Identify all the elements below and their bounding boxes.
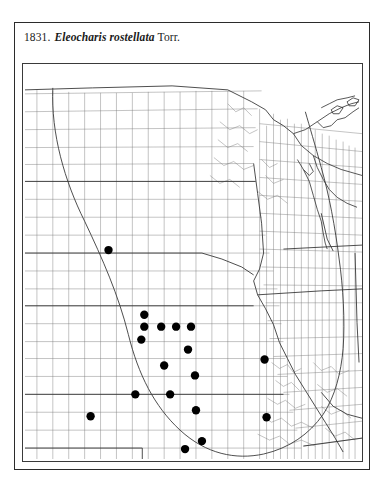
range-limit-line	[53, 88, 344, 456]
occurrence-dot	[198, 437, 206, 445]
occurrence-dot	[181, 445, 189, 453]
occurrence-dot	[262, 413, 270, 421]
occurrence-dot	[131, 390, 139, 398]
state-boundaries	[25, 86, 362, 459]
occurrence-dot	[172, 322, 180, 330]
scientific-name: Eleocharis rostellata	[50, 31, 154, 43]
occurrence-dot	[160, 361, 168, 369]
occurrence-dot	[187, 322, 195, 330]
occurrence-dot	[86, 412, 94, 420]
occurrence-dot	[137, 335, 145, 343]
occurrence-dot	[192, 406, 200, 414]
great-lakes-coastline	[293, 96, 362, 249]
plate-number: 1831.	[24, 31, 50, 43]
occurrence-dot	[140, 322, 148, 330]
plate-frame: 1831.Eleocharis rostellataTorr.	[14, 22, 370, 470]
occurrence-dot	[260, 355, 268, 363]
plate-caption: 1831.Eleocharis rostellataTorr.	[15, 23, 369, 56]
taxon-authority: Torr.	[155, 31, 180, 43]
occurrence-dot	[140, 311, 148, 319]
map-graphic	[23, 64, 362, 461]
occurrence-dot	[157, 322, 165, 330]
occurrence-dot	[184, 345, 192, 353]
page-canvas: 1831.Eleocharis rostellataTorr.	[0, 0, 386, 491]
occurrence-dot	[166, 390, 174, 398]
occurrence-dot	[191, 371, 199, 379]
occurrence-dot	[104, 246, 112, 254]
distribution-map	[22, 63, 363, 462]
county-boundaries	[25, 90, 362, 459]
